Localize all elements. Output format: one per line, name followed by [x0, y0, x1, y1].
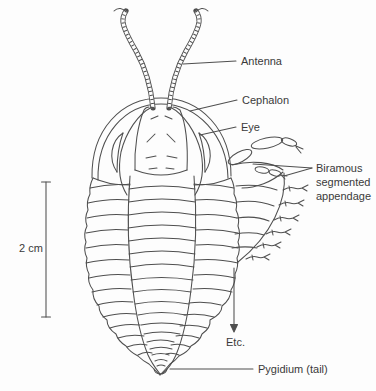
biramous-appendage-label: Biramous segmented appendage	[316, 162, 371, 202]
pygidium-label: Pygidium (tail)	[258, 363, 328, 375]
scale-bar	[42, 182, 51, 317]
antenna-leader-line	[183, 61, 236, 64]
antenna-right	[169, 8, 208, 108]
antenna-left	[114, 8, 153, 108]
biramous-label-line-1: Biramous	[316, 162, 363, 174]
biramous-label-line-2: segmented	[316, 176, 370, 188]
eye-label: Eye	[241, 121, 260, 133]
biramous-leader-line-lower	[284, 168, 312, 176]
trilobite-diagram: Antenna Cephalon Eye Biramous segmented …	[0, 0, 376, 391]
biramous-label-line-3: appendage	[316, 190, 371, 202]
pleura-left	[86, 184, 152, 355]
axial-rings	[128, 186, 196, 366]
etc-label: Etc.	[226, 336, 245, 348]
trilobite-figure: Antenna Cephalon Eye Biramous segmented …	[0, 0, 376, 391]
pleura-right	[166, 184, 238, 355]
leader-lines	[170, 61, 312, 369]
antenna-label: Antenna	[241, 55, 283, 67]
gill-legs	[246, 185, 308, 260]
scale-bar-label: 2 cm	[19, 242, 43, 254]
cephalon-label: Cephalon	[242, 94, 289, 106]
glabella	[135, 107, 187, 175]
cephalon-outline	[92, 98, 231, 185]
cephalon-leader-line	[190, 100, 237, 111]
body-outline	[85, 178, 240, 375]
cheek-sutures	[120, 107, 203, 195]
